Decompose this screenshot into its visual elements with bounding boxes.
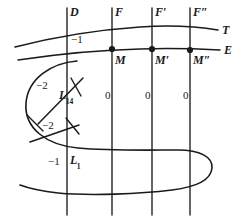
fiber-label-D: D xyxy=(70,6,79,18)
curve-label-L1: L1 xyxy=(70,154,81,169)
point-M-prime xyxy=(149,46,155,52)
vertical-fiber-lines xyxy=(67,8,190,215)
point-label-M-prime: M′ xyxy=(155,54,169,66)
fiber-label-F-double-prime: F″ xyxy=(193,6,207,18)
curve-label-L1-subscript: 1 xyxy=(77,162,81,171)
multiplicity-minus-two-lower: −2 xyxy=(42,120,54,131)
point-label-M: M xyxy=(115,54,126,66)
multiplicity-zero-first: 0 xyxy=(105,90,111,101)
fiber-label-F: F xyxy=(115,6,123,18)
fiber-label-F-double-prime-mark: ″ xyxy=(201,5,207,19)
section-label-E: E xyxy=(224,44,232,56)
section-label-T: T xyxy=(222,24,229,36)
point-label-M-double-prime-base: M xyxy=(193,53,204,67)
multiplicity-minus-two-upper: −2 xyxy=(36,80,48,91)
multiplicity-zero-third: 0 xyxy=(183,90,189,101)
section-curve-T xyxy=(15,26,218,47)
diagonal-line-lower xyxy=(30,125,79,142)
point-label-M-double-prime-mark: ″ xyxy=(204,53,210,67)
multiplicity-minus-one-bottom: −1 xyxy=(48,156,60,167)
curve-label-L14-subscript: 14 xyxy=(66,97,74,106)
point-M xyxy=(109,46,115,52)
fiber-label-F-double-prime-base: F xyxy=(193,5,201,19)
point-label-M-prime-base: M xyxy=(155,53,166,67)
point-label-M-double-prime: M″ xyxy=(193,54,210,66)
branch-curve-figure: D F F′ F″ T E M M′ M″ −1 −2 −2 −1 0 0 0 … xyxy=(0,0,240,221)
curve-label-L14: L14 xyxy=(59,89,74,104)
fiber-label-F-prime-base: F xyxy=(155,5,163,19)
figure-canvas xyxy=(0,0,240,221)
point-label-M-prime-mark: ′ xyxy=(166,53,169,67)
multiplicity-minus-one-top: −1 xyxy=(71,34,83,45)
fiber-label-F-prime: F′ xyxy=(155,6,166,18)
fiber-label-F-prime-mark: ′ xyxy=(163,5,166,19)
multiplicity-zero-second: 0 xyxy=(145,90,151,101)
